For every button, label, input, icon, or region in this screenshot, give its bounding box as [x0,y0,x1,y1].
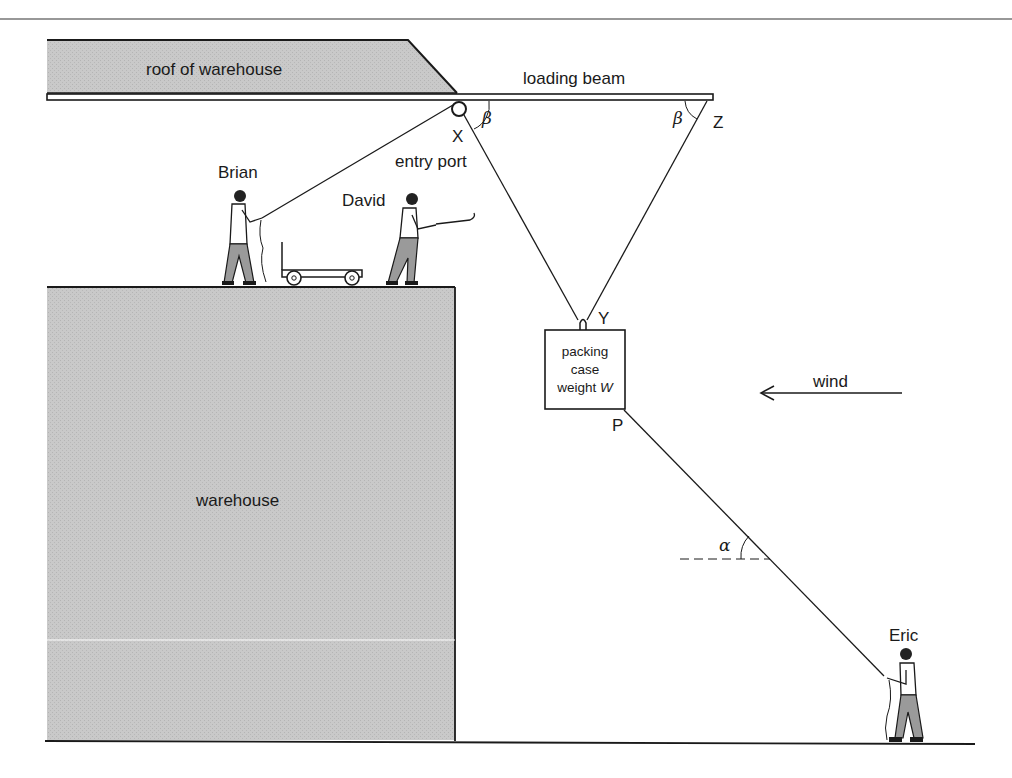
person-david-icon [386,193,475,285]
angle-arc-alpha [741,536,749,559]
david-label: David [342,191,385,210]
rope-p-eric [624,410,884,676]
warehouse-label: warehouse [195,491,279,510]
case-label-line2: case [571,362,600,377]
entry-port-label: entry port [395,152,467,171]
angle-arc-beta-z [685,101,697,119]
angle-beta-z: β [672,108,683,128]
angle-beta-x: β [481,108,492,128]
trolley-icon [282,242,362,285]
packing-case: packing case weight W [545,320,625,410]
ground-line [45,741,975,744]
brian-label: Brian [218,163,258,182]
pulley-x [452,102,466,116]
point-x-label: X [452,127,463,146]
case-label-line1: packing [562,344,609,359]
wind-label: wind [812,372,848,391]
diagram-canvas: roof of warehouse loading beam β β X Z Y… [0,0,1012,778]
point-z-label: Z [713,113,723,132]
person-eric-icon [886,648,924,742]
point-p-label: P [612,416,623,435]
wind-indicator: wind [761,372,902,400]
beam-label: loading beam [523,69,625,88]
case-label-line3: weight W [556,380,614,395]
warehouse: warehouse [47,287,455,741]
rope-x-y [464,115,578,320]
rope-z-y [587,101,707,320]
angle-alpha: α [719,535,731,555]
roof-of-warehouse: roof of warehouse [47,40,457,93]
point-y-label: Y [598,309,609,328]
person-brian-icon [222,190,266,285]
eric-label: Eric [889,626,919,645]
roof-label: roof of warehouse [146,60,282,79]
